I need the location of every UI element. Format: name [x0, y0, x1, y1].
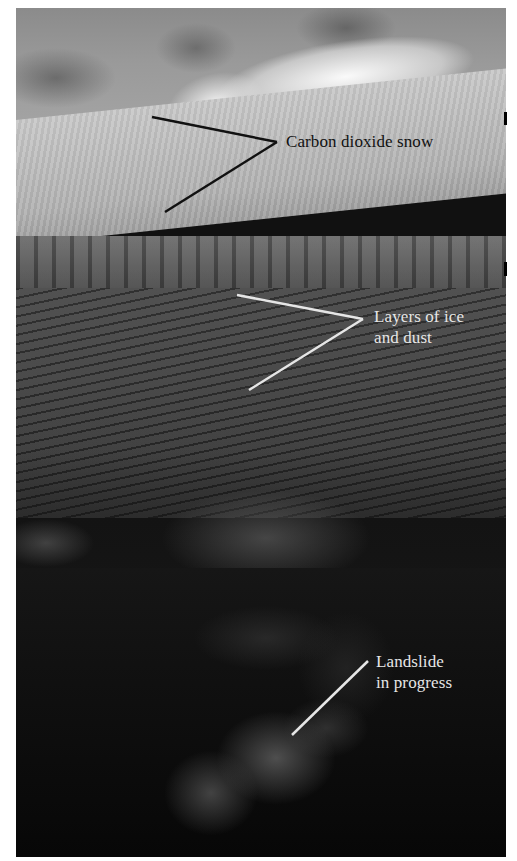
edge-tick-mark — [504, 262, 507, 276]
label-line: Landslide — [376, 651, 452, 672]
edge-tick-mark — [504, 112, 507, 125]
label-layers-of-ice-and-dust: Layers of ice and dust — [374, 306, 464, 348]
cliff-face — [16, 236, 506, 296]
label-line: in progress — [376, 672, 452, 693]
label-landslide-in-progress: Landslide in progress — [376, 651, 452, 693]
label-carbon-dioxide-snow: Carbon dioxide snow — [286, 131, 433, 152]
label-line: and dust — [374, 327, 464, 348]
label-line: Carbon dioxide snow — [286, 131, 433, 152]
label-line: Layers of ice — [374, 306, 464, 327]
